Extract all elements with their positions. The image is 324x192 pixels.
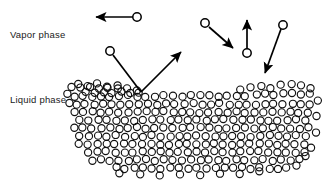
liquid-molecule [120, 140, 127, 147]
liquid-molecule [252, 101, 259, 108]
liquid-molecule [97, 109, 104, 116]
liquid-molecule [100, 100, 107, 107]
diagram-canvas: Vapor phase Liquid phase [0, 0, 324, 192]
liquid-molecule [223, 125, 230, 132]
liquid-molecule [190, 100, 197, 107]
liquid-molecule [112, 149, 119, 156]
liquid-molecule [302, 133, 309, 140]
liquid-molecule [211, 148, 218, 155]
liquid-molecule [149, 116, 156, 123]
liquid-molecule [193, 116, 200, 123]
liquid-molecule [288, 81, 295, 88]
liquid-molecule [230, 116, 237, 123]
liquid-molecule [219, 149, 226, 156]
liquid-molecule [184, 117, 191, 124]
liquid-molecule [302, 117, 309, 124]
liquid-molecule [76, 116, 83, 123]
liquid-molecule [170, 109, 177, 116]
liquid-molecule [237, 86, 244, 93]
liquid-molecule [142, 93, 149, 100]
liquid-molecule [233, 108, 240, 115]
liquid-molecule [166, 149, 173, 156]
liquid-molecule [160, 156, 167, 163]
liquid-molecule [148, 165, 155, 172]
liquid-molecule [157, 116, 164, 123]
liquid-molecule [251, 109, 258, 116]
liquid-molecule [167, 133, 174, 140]
liquid-molecule [160, 92, 167, 99]
liquid-molecule [219, 141, 226, 148]
liquid-molecule [178, 157, 185, 164]
liquid-molecule [291, 141, 298, 148]
liquid-molecule [251, 125, 258, 132]
liquid-molecule [301, 141, 308, 148]
liquid-molecule [151, 157, 158, 164]
liquid-molecule [192, 132, 199, 139]
liquid-molecule [275, 132, 282, 139]
liquid-molecule [71, 108, 78, 115]
liquid-molecule [143, 108, 150, 115]
liquid-molecule [238, 133, 245, 140]
vapor-liquid-interface-figure: Vapor phase Liquid phase [0, 0, 324, 192]
liquid-molecule [284, 117, 291, 124]
liquid-molecule [306, 101, 313, 108]
liquid-molecule [112, 131, 119, 138]
liquid-molecule [282, 149, 289, 156]
liquid-molecule [265, 140, 272, 147]
trajectory-arrow-reflected-from-surface [141, 52, 181, 92]
liquid-molecule [210, 140, 217, 147]
liquid-molecule [197, 172, 204, 179]
liquid-molecule [175, 164, 182, 171]
liquid-molecule [121, 133, 128, 140]
liquid-molecule [314, 97, 321, 104]
liquid-molecule [289, 100, 296, 107]
liquid-molecule [229, 141, 236, 148]
liquid-molecule [203, 117, 210, 124]
liquid-molecule [243, 101, 250, 108]
liquid-molecule [124, 124, 131, 131]
liquid-molecule [280, 90, 287, 97]
liquid-molecule [277, 156, 284, 163]
liquid-molecule [183, 140, 190, 147]
liquid-molecule [260, 109, 267, 116]
liquid-molecule [202, 141, 209, 148]
liquid-molecule [103, 133, 110, 140]
liquid-molecule [139, 133, 146, 140]
liquid-molecule [79, 108, 86, 115]
liquid-molecule [247, 165, 254, 172]
liquid-molecule [126, 101, 133, 108]
liquid-molecule [259, 156, 266, 163]
vapor-molecule-incident-upper-left [106, 47, 114, 55]
liquid-molecule [167, 116, 174, 123]
liquid-molecule [175, 116, 182, 123]
liquid-molecule [131, 133, 138, 140]
liquid-molecule [121, 165, 128, 172]
liquid-molecule [131, 164, 138, 171]
liquid-molecule [266, 131, 273, 138]
liquid-molecule [94, 148, 101, 155]
liquid-molecule [129, 149, 136, 156]
liquid-molecule [255, 147, 262, 154]
liquid-molecule [89, 157, 96, 164]
liquid-molecule [215, 157, 222, 164]
liquid-molecule [169, 124, 176, 131]
liquid-molecule [297, 91, 304, 98]
liquid-molecule [125, 157, 132, 164]
liquid-molecule [142, 155, 149, 162]
liquid-molecule [193, 148, 200, 155]
liquid-molecule [179, 93, 186, 100]
liquid-molecule [223, 157, 230, 164]
liquid-molecule [269, 157, 276, 164]
liquid-molecule [179, 124, 186, 131]
liquid-molecule [106, 157, 113, 164]
liquid-molecule [103, 116, 110, 123]
liquid-molecule [247, 116, 254, 123]
liquid-molecule [89, 108, 96, 115]
liquid-molecule [148, 148, 155, 155]
liquid-molecule [139, 116, 146, 123]
liquid-molecule [106, 108, 113, 115]
liquid-molecule [108, 101, 115, 108]
liquid-molecule [85, 117, 92, 124]
liquid-molecule [157, 133, 164, 140]
liquid-molecule [247, 84, 254, 91]
